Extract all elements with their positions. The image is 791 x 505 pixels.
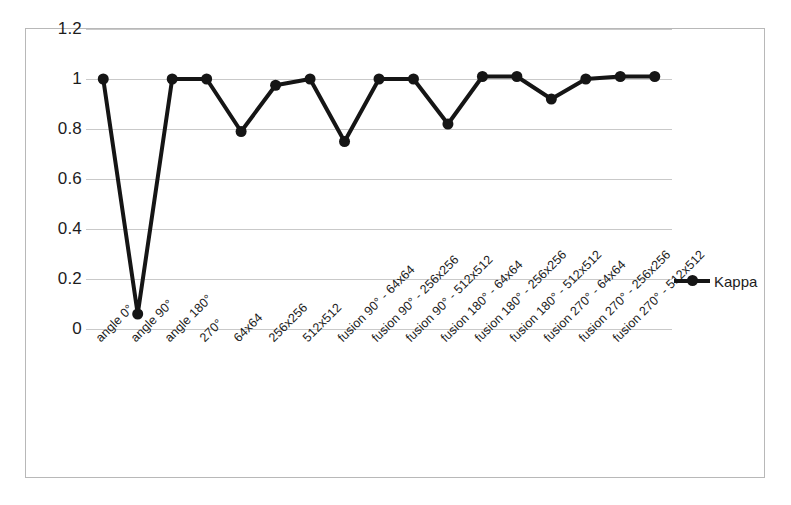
chart-frame: 1.210.80.60.40.20 angle 0°angle 90°angle… — [25, 28, 765, 478]
data-point — [442, 119, 453, 130]
y-axis: 1.210.80.60.40.20 — [26, 29, 82, 479]
y-tick-label: 1.2 — [36, 19, 82, 39]
data-point — [546, 94, 557, 105]
y-tick-label: 0.2 — [36, 269, 82, 289]
y-tick-label: 0.6 — [36, 169, 82, 189]
y-tick-label: 1 — [36, 69, 82, 89]
legend-marker-icon — [674, 274, 710, 288]
data-point — [374, 74, 385, 85]
y-tick-label: 0 — [36, 319, 82, 339]
data-point — [339, 136, 350, 147]
chart-plot-wrapper: 1.210.80.60.40.20 angle 0°angle 90°angle… — [26, 29, 766, 479]
data-point — [477, 71, 488, 82]
data-point — [270, 80, 281, 91]
data-point — [649, 71, 660, 82]
data-point — [580, 74, 591, 85]
x-axis: angle 0°angle 90°angle 180°270°64x64256x… — [86, 329, 672, 479]
y-tick-label: 0.8 — [36, 119, 82, 139]
chart-legend: Kappa — [674, 261, 766, 301]
data-point — [408, 74, 419, 85]
legend-label: Kappa — [714, 273, 757, 290]
y-tick-label: 0.4 — [36, 219, 82, 239]
data-point — [236, 126, 247, 137]
series-kappa — [86, 29, 672, 329]
data-point — [98, 74, 109, 85]
data-point — [511, 71, 522, 82]
data-point — [615, 71, 626, 82]
data-point — [201, 74, 212, 85]
plot-area — [86, 29, 672, 329]
data-point — [305, 74, 316, 85]
data-point — [167, 74, 178, 85]
